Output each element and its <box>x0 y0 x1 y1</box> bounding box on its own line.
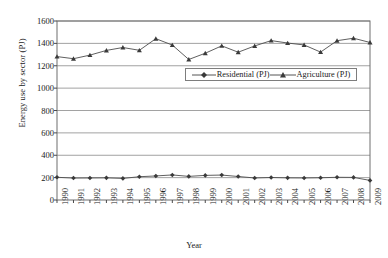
chart-figure: Energy use by sector (PJ) 02004006008001… <box>0 0 388 258</box>
x-axis-label: Year <box>0 240 388 250</box>
legend-label-agriculture: Agriculture (PJ) <box>297 70 351 79</box>
chart-legend: Residential (PJ) Agriculture (PJ) <box>185 68 357 81</box>
plot-area <box>0 0 388 258</box>
legend-label-residential: Residential (PJ) <box>217 70 270 79</box>
legend-item-residential: Residential (PJ) <box>192 70 270 80</box>
legend-item-agriculture: Agriculture (PJ) <box>270 70 351 80</box>
triangle-marker-icon <box>270 70 296 80</box>
diamond-marker-icon <box>192 70 216 80</box>
